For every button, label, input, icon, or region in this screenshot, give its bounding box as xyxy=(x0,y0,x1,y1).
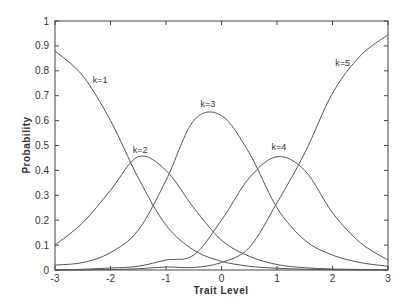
curve-k5 xyxy=(55,35,388,270)
curve-label-k2: k=2 xyxy=(133,145,148,155)
curve-k2 xyxy=(55,156,388,270)
y-axis: 00.10.20.30.40.50.60.70.80.91 xyxy=(35,16,388,276)
curve-k4 xyxy=(55,157,388,270)
y-tick-label: 0.8 xyxy=(35,65,49,76)
x-tick-label: 1 xyxy=(274,273,280,284)
curve-label-k5: k=5 xyxy=(335,58,350,68)
x-tick-label: 0 xyxy=(219,273,225,284)
y-tick-label: 1 xyxy=(43,16,49,27)
y-tick-label: 0.1 xyxy=(35,240,49,251)
x-tick-label: 2 xyxy=(330,273,336,284)
y-tick-label: 0.2 xyxy=(35,215,49,226)
y-tick-label: 0.5 xyxy=(35,140,49,151)
x-tick-label: -1 xyxy=(162,273,171,284)
curve-labels: k=1k=2k=3k=4k=5 xyxy=(93,58,350,155)
y-tick-label: 0.6 xyxy=(35,115,49,126)
y-tick-label: 0.3 xyxy=(35,190,49,201)
x-axis-label: Trait Level xyxy=(194,285,249,296)
y-tick-label: 0.7 xyxy=(35,90,49,101)
y-tick-label: 0 xyxy=(43,265,49,276)
curves xyxy=(55,35,388,270)
y-tick-label: 0.9 xyxy=(35,40,49,51)
x-tick-label: 3 xyxy=(385,273,391,284)
category-response-chart: 00.10.20.30.40.50.60.70.80.91 -3-2-10123… xyxy=(0,0,410,307)
curve-label-k4: k=4 xyxy=(271,142,286,152)
curve-k3 xyxy=(55,112,388,266)
x-tick-label: -2 xyxy=(106,273,115,284)
y-axis-label: Probability xyxy=(21,116,32,173)
curve-label-k3: k=3 xyxy=(200,99,215,109)
x-tick-label: -3 xyxy=(51,273,60,284)
curve-label-k1: k=1 xyxy=(93,75,108,85)
y-tick-label: 0.4 xyxy=(35,165,49,176)
